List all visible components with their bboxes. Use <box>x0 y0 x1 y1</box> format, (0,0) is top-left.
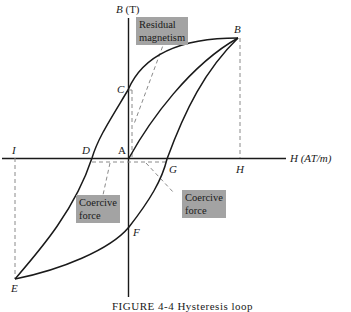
b-axis-unit: (T) <box>125 3 139 15</box>
point-h-label: H <box>236 164 244 175</box>
point-c-label: C <box>117 84 124 95</box>
coercive-right-line2: force <box>185 204 223 217</box>
coercive-left-line2: force <box>79 209 117 222</box>
point-f-label: F <box>133 227 140 238</box>
residual-magnetism-callout: Residual magnetism <box>136 17 188 45</box>
point-d-label: D <box>82 145 90 156</box>
leader-residual <box>134 40 165 124</box>
coercive-force-callout-left: Coercive force <box>76 195 120 223</box>
point-i-label: I <box>12 145 16 156</box>
point-g-label: G <box>169 164 177 175</box>
point-e-label: E <box>11 283 18 294</box>
residual-line2: magnetism <box>139 31 185 44</box>
leader-coercive-left <box>103 163 110 195</box>
residual-line1: Residual <box>139 18 185 31</box>
coercive-left-line1: Coercive <box>79 196 117 209</box>
point-a-label: A <box>118 145 126 156</box>
b-axis-var: B <box>116 3 123 15</box>
coercive-right-line1: Coercive <box>185 191 223 204</box>
h-axis-label: H (AT/m) <box>290 153 331 164</box>
h-axis-unit: (AT/m) <box>301 152 332 164</box>
point-b-label: B <box>234 24 241 35</box>
figure-caption: FIGURE 4-4 Hysteresis loop <box>112 300 253 312</box>
h-axis-var: H <box>290 152 298 164</box>
coercive-force-callout-right: Coercive force <box>182 190 226 218</box>
b-axis-label: B (T) <box>116 4 140 15</box>
